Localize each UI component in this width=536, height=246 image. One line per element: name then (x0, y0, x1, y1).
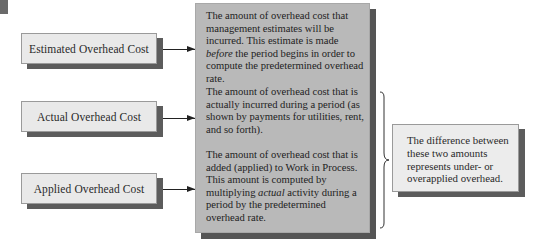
applied-overhead-cost-box: Applied Overhead Cost (21, 173, 157, 204)
curly-brace-icon (378, 91, 392, 229)
corner-mark (0, 0, 8, 14)
applied-overhead-cost-label: Applied Overhead Cost (34, 183, 145, 195)
actual-overhead-cost-label: Actual Overhead Cost (37, 111, 141, 123)
estimated-overhead-cost-label: Estimated Overhead Cost (29, 43, 149, 55)
applied-overhead-description: The amount of overhead cost that is adde… (206, 149, 366, 225)
arrow-right-icon (163, 118, 195, 119)
estimated-overhead-cost-box: Estimated Overhead Cost (21, 33, 157, 64)
actual-overhead-cost-box: Actual Overhead Cost (21, 101, 157, 132)
descriptions-panel: The amount of overhead cost that managem… (195, 3, 370, 233)
actual-overhead-description: The amount of overhead cost that is actu… (206, 86, 366, 136)
estimated-overhead-description: The amount of overhead cost that managem… (206, 10, 366, 86)
under-overapplied-result-box: The difference between these two amounts… (392, 124, 519, 192)
result-text: The difference between these two amounts… (407, 134, 509, 184)
arrow-right-icon (163, 49, 195, 50)
arrow-right-icon (163, 189, 195, 190)
